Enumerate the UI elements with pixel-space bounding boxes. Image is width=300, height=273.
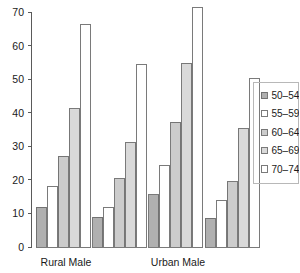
legend-label: 55–59 bbox=[272, 108, 300, 119]
legend-swatch-icon bbox=[261, 129, 267, 135]
y-axis-ticks bbox=[28, 12, 32, 247]
legend-entries: 50–5455–5960–6465–6970–74 bbox=[261, 90, 299, 175]
x-tick-label-urban-male: Urban Male bbox=[151, 256, 205, 268]
legend-swatch-icon bbox=[261, 92, 267, 98]
legend-swatch-icon bbox=[261, 148, 267, 154]
legend-label: 60–64 bbox=[272, 127, 300, 138]
bar bbox=[36, 207, 46, 247]
y-tick-label-20: 20 bbox=[12, 174, 24, 186]
bar bbox=[182, 63, 192, 247]
legend-label: 65–69 bbox=[272, 145, 300, 156]
bar bbox=[58, 156, 68, 247]
bar bbox=[193, 8, 203, 247]
bar bbox=[126, 143, 136, 247]
bar bbox=[205, 218, 215, 247]
bar bbox=[93, 217, 103, 247]
bar bbox=[149, 195, 159, 247]
y-tick-label-50: 50 bbox=[12, 73, 24, 85]
legend-label: 70–74 bbox=[272, 164, 300, 175]
bar bbox=[47, 186, 57, 247]
x-axis-labels: Rural Male Urban Male bbox=[41, 256, 206, 268]
bar bbox=[238, 129, 248, 247]
chart-canvas: 70 60 50 40 30 20 10 0 Rural Male Urban … bbox=[0, 0, 299, 273]
bar bbox=[104, 207, 114, 247]
x-tick-label-rural-male: Rural Male bbox=[41, 256, 92, 268]
legend: 50–5455–5960–6465–6970–74 bbox=[254, 83, 300, 184]
y-tick-label-30: 30 bbox=[12, 140, 24, 152]
bar bbox=[115, 179, 125, 247]
bar-group bbox=[149, 8, 203, 247]
bar bbox=[171, 122, 181, 247]
y-tick-label-40: 40 bbox=[12, 107, 24, 119]
y-axis: 70 60 50 40 30 20 10 0 bbox=[12, 6, 31, 253]
bar-group bbox=[205, 78, 259, 247]
bar-group bbox=[36, 25, 90, 247]
legend-swatch-icon bbox=[261, 111, 267, 117]
y-tick-label-60: 60 bbox=[12, 40, 24, 52]
legend-label: 50–54 bbox=[272, 90, 300, 101]
legend-swatch-icon bbox=[261, 166, 267, 172]
bars-layer bbox=[36, 8, 259, 247]
bar bbox=[160, 165, 170, 247]
bar bbox=[69, 109, 79, 247]
y-tick-label-10: 10 bbox=[12, 207, 24, 219]
bar bbox=[137, 64, 147, 247]
y-tick-label-70: 70 bbox=[12, 6, 24, 18]
y-tick-label-0: 0 bbox=[18, 241, 24, 253]
bar bbox=[80, 25, 90, 247]
bar-group bbox=[93, 64, 147, 247]
y-axis-tick-labels: 70 60 50 40 30 20 10 0 bbox=[12, 6, 24, 253]
bar bbox=[227, 182, 237, 247]
bar bbox=[249, 78, 259, 247]
bar bbox=[216, 201, 226, 247]
bar-chart: 70 60 50 40 30 20 10 0 Rural Male Urban … bbox=[0, 0, 299, 273]
